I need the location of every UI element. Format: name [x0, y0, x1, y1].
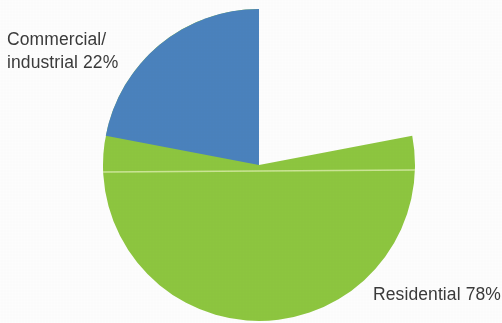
- pie-label-residential: Residential 78%: [373, 283, 501, 306]
- pie-label-commercial-industrial: Commercial/ industrial 22%: [7, 28, 118, 74]
- pie-chart-figure: Commercial/ industrial 22% Residential 7…: [0, 0, 502, 323]
- pie-label-commercial-line1: Commercial/: [7, 29, 106, 49]
- pie-label-commercial-line2: industrial 22%: [7, 51, 118, 74]
